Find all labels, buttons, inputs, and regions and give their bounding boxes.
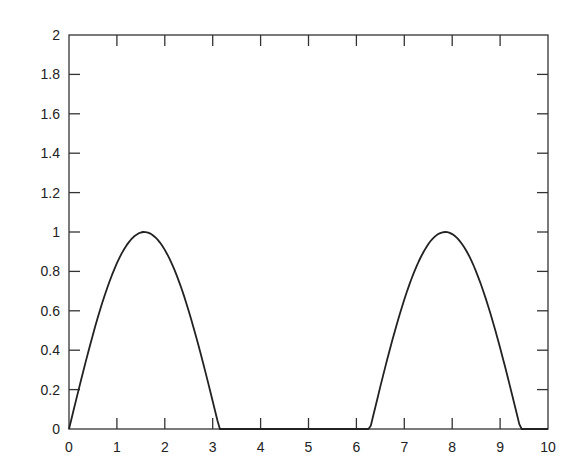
x-tick-label: 9 [496,439,504,455]
y-axis-tick-labels: 00.20.40.60.811.21.41.61.82 [41,27,61,437]
x-tick-label: 8 [448,439,456,455]
x-tick-label: 7 [400,439,408,455]
line-chart: 012345678910 00.20.40.60.811.21.41.61.82 [0,0,585,471]
y-tick-label: 1.4 [41,145,61,161]
x-tick-label: 3 [209,439,217,455]
y-tick-label: 1.2 [41,185,61,201]
y-tick-label: 1 [52,224,60,240]
x-tick-label: 6 [353,439,361,455]
y-tick-label: 1.8 [41,66,61,82]
y-tick-label: 1.6 [41,106,61,122]
y-tick-label: 0.6 [41,303,61,319]
x-tick-label: 10 [540,439,556,455]
y-tick-label: 0 [52,421,60,437]
y-tick-label: 0.8 [41,263,61,279]
x-tick-label: 0 [65,439,73,455]
x-tick-label: 4 [257,439,265,455]
x-tick-label: 1 [113,439,121,455]
y-tick-label: 2 [52,27,60,43]
y-tick-label: 0.4 [41,342,61,358]
x-tick-label: 2 [161,439,169,455]
data-line [69,232,548,429]
x-axis-tick-labels: 012345678910 [65,439,556,455]
y-tick-label: 0.2 [41,382,61,398]
x-tick-label: 5 [305,439,313,455]
